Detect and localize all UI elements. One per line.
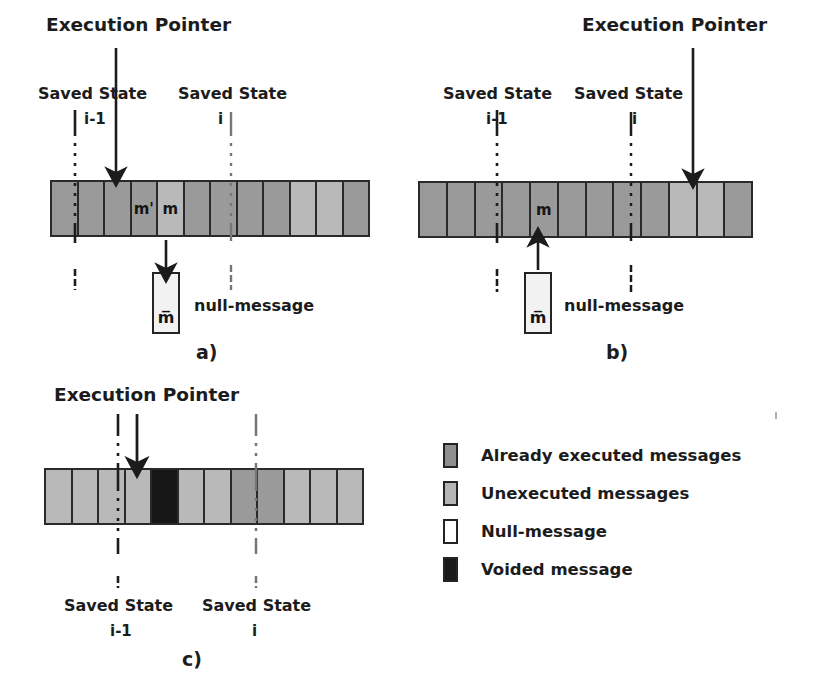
panel-a-message-cell-10: [291, 182, 318, 235]
panel-a-saved-state-left-label: Saved State: [38, 84, 147, 103]
panel-c-message-cell-9: [258, 470, 285, 523]
panel-b-null-message-box: m̅: [524, 272, 552, 334]
panel-c-message-cell-11: [311, 470, 338, 523]
panel-b-letter: b): [606, 341, 628, 363]
legend-swatch-voided-message: [443, 557, 458, 582]
panel-b-message-cell-3: [476, 183, 504, 236]
panel-c-saved-state-left-index: i-1: [110, 622, 132, 640]
panel-a-message-cell-5: m: [158, 182, 185, 235]
annotation-overlay: [0, 0, 821, 694]
panel-b-message-cell-5-label: m: [531, 201, 557, 219]
panel-a-message-cell-11: [317, 182, 344, 235]
panel-b-message-cell-1: [420, 183, 448, 236]
panel-c-message-cell-6: [179, 470, 206, 523]
scan-speck: [775, 412, 777, 419]
panel-a-message-cell-1: [52, 182, 79, 235]
panel-c-letter: c): [182, 648, 202, 670]
panel-a-message-cell-8: [238, 182, 265, 235]
panel-b-message-cell-2: [448, 183, 476, 236]
panel-b-message-cell-6: [559, 183, 587, 236]
panel-b-null-message-label: null-message: [564, 296, 684, 315]
panel-a-execution-pointer-label: Execution Pointer: [46, 14, 231, 35]
panel-b-message-bar: m: [418, 181, 753, 238]
panel-b-saved-state-right-label: Saved State: [574, 84, 683, 103]
panel-b-saved-state-right-index: i: [632, 110, 637, 128]
panel-a-message-cell-9: [264, 182, 291, 235]
legend-swatch-already-executed: [443, 443, 458, 468]
legend-label-voided-message: Voided message: [481, 560, 633, 579]
panel-a-null-message-box: m̅: [152, 272, 180, 334]
legend-label-already-executed: Already executed messages: [481, 446, 741, 465]
panel-a-null-message-label: null-message: [194, 296, 314, 315]
panel-c-message-cell-2: [73, 470, 100, 523]
panel-a-message-cell-2: [79, 182, 106, 235]
legend-label-unexecuted: Unexecuted messages: [481, 484, 689, 503]
legend-swatch-null-message: [443, 519, 458, 544]
panel-c-message-cell-3: [99, 470, 126, 523]
panel-c-message-bar: [44, 468, 364, 525]
panel-a-message-cell-12: [344, 182, 369, 235]
panel-a-message-cell-3: [105, 182, 132, 235]
panel-a-saved-state-left-index: i-1: [84, 110, 106, 128]
panel-c-message-cell-12: [338, 470, 363, 523]
panel-a-message-bar: m'm: [50, 180, 370, 237]
panel-a-message-cell-4: m': [132, 182, 159, 235]
panel-b-message-cell-9: [642, 183, 670, 236]
panel-b-message-cell-8: [614, 183, 642, 236]
panel-c-message-cell-1: [46, 470, 73, 523]
panel-a-message-cell-7: [211, 182, 238, 235]
panel-b-message-cell-4: [503, 183, 531, 236]
figure-canvas: Execution Pointer Saved State i-1 Saved …: [0, 0, 821, 694]
panel-c-saved-state-right-index: i: [252, 622, 257, 640]
panel-a-letter: a): [196, 341, 218, 363]
panel-a-message-cell-6: [185, 182, 212, 235]
panel-b-message-cell-12: [725, 183, 751, 236]
panel-b-message-cell-7: [587, 183, 615, 236]
legend-swatch-unexecuted: [443, 481, 458, 506]
panel-b-saved-state-left-index: i-1: [486, 110, 508, 128]
panel-c-execution-pointer-label: Execution Pointer: [54, 384, 239, 405]
panel-b-null-message-symbol: m̅: [526, 308, 550, 327]
panel-a-saved-state-right-index: i: [218, 110, 223, 128]
panel-b-execution-pointer-label: Execution Pointer: [582, 14, 767, 35]
panel-b-message-cell-11: [698, 183, 726, 236]
panel-a-null-message-symbol: m̅: [154, 308, 178, 327]
panel-a-message-cell-5-label: m: [158, 200, 183, 218]
panel-c-saved-state-right-label: Saved State: [202, 596, 311, 615]
panel-c-message-cell-4: [126, 470, 153, 523]
panel-c-message-cell-7: [205, 470, 232, 523]
panel-b-message-cell-5: m: [531, 183, 559, 236]
panel-a-saved-state-right-label: Saved State: [178, 84, 287, 103]
legend-label-null-message: Null-message: [481, 522, 607, 541]
panel-b-message-cell-10: [670, 183, 698, 236]
panel-c-saved-state-left-label: Saved State: [64, 596, 173, 615]
panel-c-message-cell-10: [285, 470, 312, 523]
panel-a-message-cell-4-label: m': [132, 200, 157, 218]
panel-b-saved-state-left-label: Saved State: [443, 84, 552, 103]
panel-c-message-cell-8: [232, 470, 259, 523]
panel-c-message-cell-5: [152, 470, 179, 523]
